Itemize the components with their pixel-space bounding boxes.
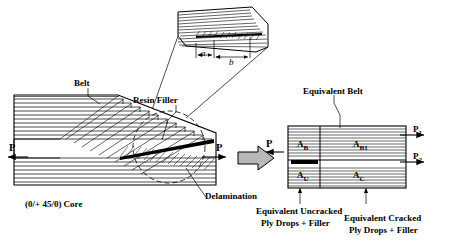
load-p2-label: P2 <box>413 151 422 165</box>
left-structure <box>8 95 226 185</box>
load-p1-label: P1 <box>413 124 422 138</box>
belt-label: Belt <box>74 78 90 88</box>
left-load-p-label: P <box>9 143 15 153</box>
equivalent-uncracked-label-line2: Ply Drops + Filler <box>261 218 330 228</box>
right-load-p-left-label: P <box>266 139 272 149</box>
region-ac-subscript: C <box>360 175 365 183</box>
core-label: (0/+ 45/0) Core <box>25 199 82 209</box>
region-ab1-label: AB1 <box>353 139 368 153</box>
detail-dim-a-label: a <box>201 48 206 58</box>
equivalent-cracked-label-line1: Equivalent Cracked <box>344 213 421 223</box>
region-au-label: AU <box>297 170 309 184</box>
load-p1-subscript: 1 <box>419 129 423 137</box>
equivalent-cracked-label-line2: Ply Drops + Filler <box>349 225 418 235</box>
region-ab-subscript: B <box>304 144 309 152</box>
resin-filler-label: Resin Filler <box>133 95 178 105</box>
right-equivalent-model <box>266 126 424 188</box>
equivalent-belt-label: Equivalent Belt <box>303 86 363 96</box>
equivalent-crack <box>291 160 318 164</box>
equivalent-uncracked-label-line1: Equivalent Uncracked <box>256 206 342 216</box>
figure-diagram: a b Belt Resin Filler Delamination (0/+ … <box>0 0 449 241</box>
delamination-label: Delamination <box>205 191 257 201</box>
region-au-subscript: U <box>304 175 309 183</box>
region-ab-label: AB <box>297 139 308 153</box>
load-p2-subscript: 2 <box>419 156 423 164</box>
region-ab1-subscript: B1 <box>360 144 368 152</box>
region-ac-label: AC <box>353 170 365 184</box>
right-load-p-label: P <box>216 143 222 153</box>
transform-arrow <box>238 146 274 170</box>
detail-magnified-laminate <box>178 7 268 58</box>
detail-dim-b-label: b <box>229 57 234 67</box>
